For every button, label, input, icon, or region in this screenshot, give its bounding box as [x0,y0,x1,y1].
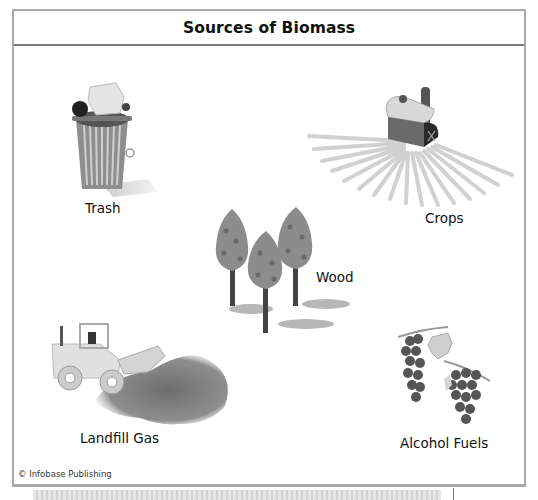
trash-can-icon [58,67,168,197]
grapes-icon [392,323,512,433]
diagram-frame: Sources of Biomass Trash [12,9,526,487]
diagram-title: Sources of Biomass [183,19,355,37]
page-edge-line [453,488,454,500]
label-crops: Crops [425,210,464,226]
label-alcohol-fuels: Alcohol Fuels [400,435,488,451]
page-edge-strip [33,490,441,500]
bulldozer-icon [40,316,240,431]
trees-icon [206,191,356,336]
copyright-credit: © Infobase Publishing [18,469,112,479]
label-wood: Wood [316,269,354,285]
barn-field-icon [304,71,519,211]
title-bar: Sources of Biomass [14,11,524,46]
label-trash: Trash [85,200,121,216]
label-landfill-gas: Landfill Gas [80,430,159,446]
